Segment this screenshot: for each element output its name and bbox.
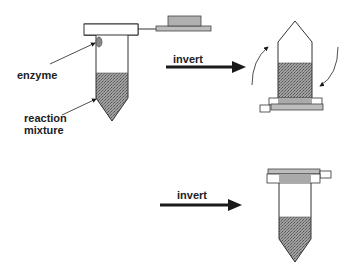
label-mixture: mixture [24, 124, 64, 136]
cap-base [156, 26, 211, 31]
inverted-tube [252, 21, 338, 112]
closed-tube [267, 169, 331, 262]
invert-arrow-1: invert [166, 53, 246, 73]
diagram-canvas: enzyme reaction mixture invert invert [0, 0, 351, 278]
closed-cap-tab [320, 171, 331, 178]
inverted-cap-tab [260, 105, 270, 112]
mixture-pointer [62, 99, 96, 115]
label-reaction: reaction [24, 112, 67, 124]
label-enzyme: enzyme [17, 69, 57, 81]
rotation-arrow-right [320, 47, 338, 86]
invert-label-1: invert [173, 53, 203, 65]
closed-fill [279, 217, 311, 262]
invert-label-2: invert [177, 189, 207, 201]
enzyme-drop [96, 37, 102, 47]
rotation-arrow-left [252, 47, 268, 85]
closed-cap-plate [268, 169, 320, 174]
cap-plug [168, 16, 201, 26]
enzyme-pointer [50, 43, 95, 64]
invert-arrow-2: invert [160, 189, 242, 211]
reaction-mixture-fill [96, 73, 128, 121]
inverted-cap-plate [271, 104, 323, 110]
